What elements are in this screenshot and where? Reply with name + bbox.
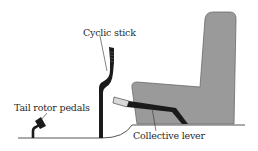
diagram-canvas — [0, 0, 258, 151]
label-cyclic-stick: Cyclic stick — [83, 27, 136, 38]
cockpit-controls-diagram: Cyclic stick Tail rotor pedals Collectiv… — [0, 0, 258, 151]
cyclic-stick — [99, 47, 114, 138]
pedals-leader-line — [41, 113, 47, 120]
floor — [18, 125, 245, 138]
label-collective-lever: Collective lever — [133, 130, 205, 141]
collective-grip — [113, 97, 129, 107]
label-tail-rotor-pedals: Tail rotor pedals — [14, 102, 90, 113]
tail-rotor-pedals — [33, 117, 46, 138]
cyclic-leader-line — [100, 36, 107, 71]
